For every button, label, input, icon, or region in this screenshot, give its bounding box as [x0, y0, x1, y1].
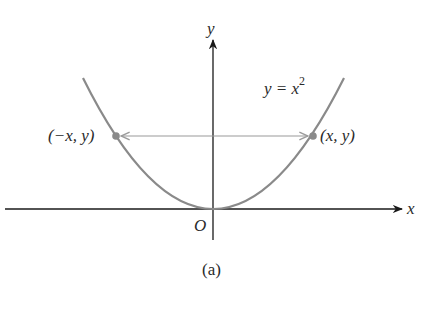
- right-point-label: (x, y): [320, 127, 355, 144]
- right-point-marker: [309, 132, 317, 140]
- equation-exponent: 2: [299, 74, 305, 88]
- y-axis-label: y: [207, 20, 215, 37]
- x-axis-label: x: [407, 200, 415, 217]
- equation-base: y = x: [264, 79, 299, 98]
- equation-label: y = x2: [264, 77, 305, 97]
- parabola-symmetry-figure: y x O y = x2 (−x, y) (x, y) (a): [0, 0, 423, 309]
- left-point-marker: [112, 132, 120, 140]
- origin-label: O: [194, 217, 206, 234]
- figure-caption: (a): [202, 261, 221, 278]
- left-point-label: (−x, y): [48, 127, 94, 144]
